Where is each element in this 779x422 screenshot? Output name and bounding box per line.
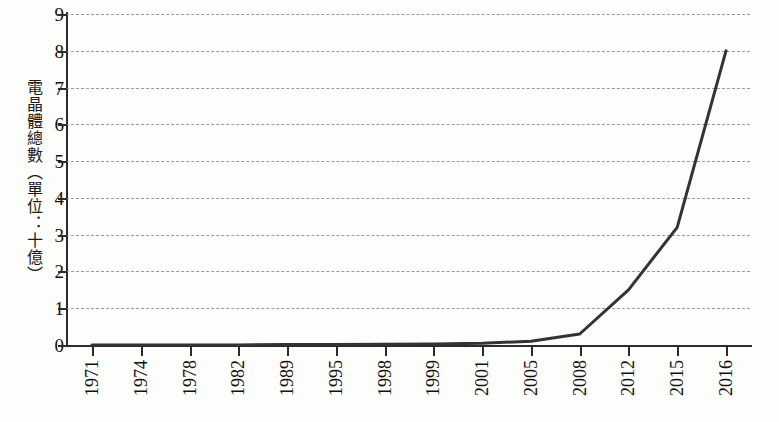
y-tick-mark-6 bbox=[58, 124, 67, 126]
x-tick-label-2005: 2005 bbox=[522, 360, 540, 396]
x-tick-mark-1978 bbox=[190, 347, 192, 356]
x-tick-mark-2001 bbox=[482, 347, 484, 356]
y-tick-mark-0 bbox=[58, 345, 67, 347]
x-tick-label-1989: 1989 bbox=[278, 360, 296, 396]
x-tick-mark-2015 bbox=[677, 347, 679, 356]
x-tick-label-2012: 2012 bbox=[619, 360, 637, 396]
x-tick-mark-2005 bbox=[531, 347, 533, 356]
x-axis-tick-labels: 1971197419781982198919951998199920012005… bbox=[0, 0, 779, 422]
x-tick-mark-2008 bbox=[580, 347, 582, 356]
y-tick-mark-7 bbox=[58, 88, 67, 90]
y-tick-mark-3 bbox=[58, 235, 67, 237]
x-tick-mark-1999 bbox=[433, 347, 435, 356]
x-tick-label-1971: 1971 bbox=[83, 360, 101, 396]
x-tick-label-2001: 2001 bbox=[473, 360, 491, 396]
y-tick-mark-5 bbox=[58, 161, 67, 163]
x-tick-mark-1974 bbox=[141, 347, 143, 356]
x-tick-label-2008: 2008 bbox=[571, 360, 589, 396]
x-tick-label-1999: 1999 bbox=[424, 360, 442, 396]
x-tick-mark-1971 bbox=[92, 347, 94, 356]
y-tick-mark-1 bbox=[58, 308, 67, 310]
x-tick-label-1998: 1998 bbox=[376, 360, 394, 396]
x-tick-mark-1989 bbox=[287, 347, 289, 356]
x-tick-label-2015: 2015 bbox=[668, 360, 686, 396]
y-tick-mark-4 bbox=[58, 198, 67, 200]
x-tick-mark-1998 bbox=[385, 347, 387, 356]
x-tick-mark-1982 bbox=[238, 347, 240, 356]
x-tick-mark-2016 bbox=[726, 347, 728, 356]
x-tick-label-2016: 2016 bbox=[717, 360, 735, 396]
y-tick-mark-9 bbox=[58, 14, 67, 16]
x-tick-label-1982: 1982 bbox=[229, 360, 247, 396]
y-tick-mark-8 bbox=[58, 51, 67, 53]
x-tick-label-1978: 1978 bbox=[181, 360, 199, 396]
transistor-count-line-chart: 電晶體總數（單位：十億） 0123456789 1971197419781982… bbox=[0, 0, 779, 422]
x-tick-mark-2012 bbox=[628, 347, 630, 356]
x-tick-mark-1995 bbox=[336, 347, 338, 356]
y-tick-mark-2 bbox=[58, 271, 67, 273]
x-tick-label-1995: 1995 bbox=[327, 360, 345, 396]
x-tick-label-1974: 1974 bbox=[132, 360, 150, 396]
